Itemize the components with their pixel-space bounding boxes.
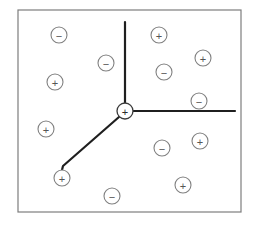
charge-diagram: −−+++−−++−−++ + [0, 0, 259, 229]
charge-plus-6-sign: + [197, 136, 203, 148]
diagram-canvas: −−+++−−++−−++ + [0, 0, 259, 229]
charge-minus-5: − [104, 188, 120, 204]
charge-minus-5-sign: − [109, 191, 115, 203]
charge-minus-3-sign: − [161, 67, 167, 79]
charge-plus-3-sign: + [200, 53, 206, 65]
charge-minus-4-sign: − [196, 96, 202, 108]
charge-plus-4: + [38, 121, 54, 137]
charge-plus-5-sign: + [59, 173, 65, 185]
charge-minus-3: − [156, 64, 172, 80]
charge-minus-6: − [154, 140, 170, 156]
charge-plus-6: + [192, 133, 208, 149]
charge-plus-1: + [47, 74, 63, 90]
charge-minus-1-sign: − [56, 30, 62, 42]
junction-layer: + [117, 103, 133, 119]
charge-plus-4-sign: + [43, 124, 49, 136]
charge-plus-7: + [175, 177, 191, 193]
charge-minus-6-sign: − [159, 143, 165, 155]
charge-plus-5: + [54, 170, 70, 186]
central-node-sign: + [122, 106, 128, 118]
charge-minus-1: − [51, 27, 67, 43]
charge-plus-2-sign: + [156, 30, 162, 42]
charge-minus-4: − [191, 93, 207, 109]
charge-plus-2: + [151, 27, 167, 43]
charge-plus-7-sign: + [180, 180, 186, 192]
charge-plus-3: + [195, 50, 211, 66]
charge-minus-2-sign: − [103, 58, 109, 70]
charge-plus-1-sign: + [52, 77, 58, 89]
charge-minus-2: − [98, 55, 114, 71]
central-node: + [117, 103, 133, 119]
